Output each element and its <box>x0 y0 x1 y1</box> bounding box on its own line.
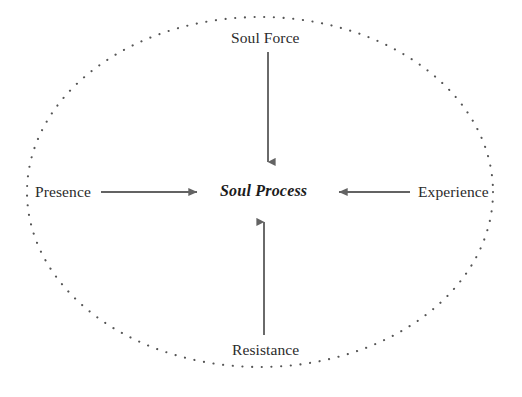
node-label-presence: Presence <box>35 184 91 200</box>
diagram-canvas: Soul Force Presence Soul Process Experie… <box>0 0 522 397</box>
node-label-soul-process: Soul Process <box>220 183 307 199</box>
node-label-experience: Experience <box>418 184 489 200</box>
node-label-soul-force: Soul Force <box>231 30 300 46</box>
node-label-resistance: Resistance <box>232 342 299 358</box>
